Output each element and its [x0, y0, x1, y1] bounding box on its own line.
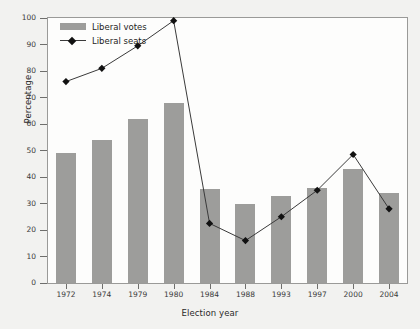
y-axis-tick	[40, 177, 47, 178]
diamond-marker-icon	[206, 220, 213, 227]
y-axis-tick-label: 60	[0, 119, 36, 128]
y-axis-tick	[40, 18, 47, 19]
y-axis-tick	[40, 97, 47, 98]
y-axis-tick-label: 90	[0, 40, 36, 49]
diamond-marker-icon	[242, 237, 249, 244]
legend-item-liberal-votes: Liberal votes	[60, 20, 147, 33]
y-axis-tick-label: 10	[0, 252, 36, 261]
x-axis-tick	[210, 284, 211, 289]
x-axis-tick	[138, 284, 139, 289]
y-axis-tick-label: 70	[0, 93, 36, 102]
legend-label: Liberal seats	[92, 36, 146, 46]
y-axis-tick-label: 80	[0, 66, 36, 75]
x-axis-tick	[102, 284, 103, 289]
legend-item-liberal-seats: Liberal seats	[60, 34, 147, 47]
y-axis-tick	[40, 203, 47, 204]
y-axis-tick	[40, 124, 47, 125]
diamond-marker-icon	[68, 36, 76, 44]
x-axis-tick	[245, 284, 246, 289]
x-axis-tick	[66, 284, 67, 289]
chart-legend: Liberal votes Liberal seats	[60, 20, 147, 48]
x-axis-label: Election year	[0, 308, 420, 318]
line-series-layer	[48, 18, 407, 283]
y-axis-tick	[40, 283, 47, 284]
diamond-marker-icon	[385, 205, 392, 212]
y-axis-tick	[40, 71, 47, 72]
line-diamond-swatch-icon	[60, 36, 86, 45]
y-axis-tick	[40, 150, 47, 151]
plot-area	[48, 18, 407, 283]
y-axis-tick	[40, 230, 47, 231]
y-axis-tick-label: 0	[0, 278, 36, 287]
chart-container: Percentage 0102030405060708090100 197219…	[0, 0, 420, 329]
x-axis-tick	[174, 284, 175, 289]
y-axis-tick-label: 100	[0, 13, 36, 22]
y-axis-tick-label: 40	[0, 172, 36, 181]
diamond-marker-icon	[98, 65, 105, 72]
bar-swatch-icon	[60, 23, 86, 30]
legend-label: Liberal votes	[92, 22, 147, 32]
y-axis-tick-label: 50	[0, 146, 36, 155]
x-axis-tick	[317, 284, 318, 289]
x-axis-tick-label: 2004	[366, 290, 412, 299]
y-axis-tick	[40, 44, 47, 45]
diamond-marker-icon	[62, 78, 69, 85]
plot-frame	[47, 17, 408, 284]
y-axis-tick-label: 30	[0, 199, 36, 208]
diamond-marker-icon	[170, 17, 177, 24]
x-axis-tick	[353, 284, 354, 289]
y-axis-tick-label: 20	[0, 225, 36, 234]
x-axis-tick	[389, 284, 390, 289]
diamond-marker-icon	[278, 213, 285, 220]
y-axis-tick	[40, 256, 47, 257]
x-axis-tick	[281, 284, 282, 289]
line-path	[66, 21, 389, 241]
